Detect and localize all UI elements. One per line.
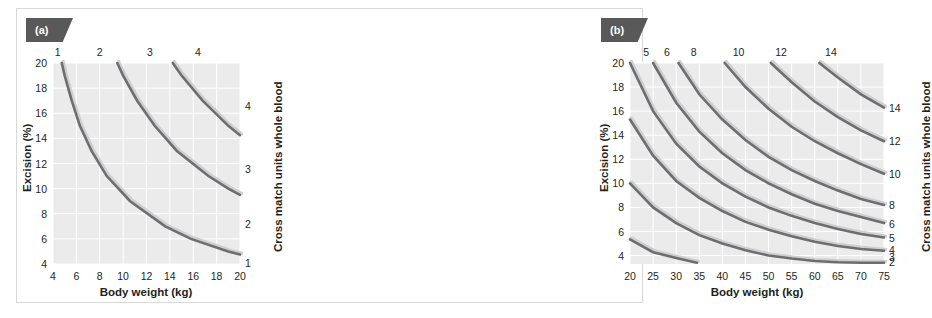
panel-a-xtick-6: 6 — [73, 270, 79, 282]
panel-a-yaxis-title: Excision (%) — [21, 124, 33, 192]
panel-a-right-label-2: 2 — [245, 218, 251, 230]
panel-a-xtick-20: 20 — [234, 270, 246, 282]
panel-a-ytick-20: 20 — [27, 57, 47, 69]
panel-a-xtick-8: 8 — [97, 270, 103, 282]
panel-b-xtick-65: 65 — [832, 270, 844, 282]
panel-a-plot-area — [53, 63, 240, 264]
panel-b-ytick-20: 20 — [604, 57, 624, 69]
panel-b-xtick-40: 40 — [717, 270, 729, 282]
panel-a-xtick-10: 10 — [117, 270, 129, 282]
panel-b-right-label-10: 10 — [889, 168, 901, 180]
panel-b-right-label-6: 6 — [889, 218, 895, 230]
panel-a-xtick-4: 4 — [50, 270, 56, 282]
panel-b-xtick-55: 55 — [786, 270, 798, 282]
panel-a-ytick-6: 6 — [27, 233, 47, 245]
panel-b-xaxis-title: Body weight (kg) — [711, 286, 804, 298]
panel-b-xtick-20: 20 — [624, 270, 636, 282]
panel-b-right-label-2: 2 — [889, 256, 895, 268]
panel-b-xtick-45: 45 — [740, 270, 752, 282]
panel-a-ytick-18: 18 — [27, 82, 47, 94]
panel-b-ytick-16: 16 — [604, 105, 624, 117]
panel-a: (a) 468101214161820468101214161820123443… — [0, 0, 300, 318]
panel-a-right-label-1: 1 — [245, 257, 251, 269]
panel-b-top-label-6: 6 — [664, 46, 670, 58]
panel-b-top-label-14: 14 — [825, 46, 837, 58]
panel-a-right-label-4: 4 — [245, 100, 251, 112]
panel-a-right-axis-title: Cross match units whole blood — [272, 81, 284, 252]
panel-a-top-label-3: 3 — [147, 46, 153, 58]
panel-b-ytick-18: 18 — [604, 81, 624, 93]
panel-b-yaxis-title: Excision (%) — [598, 124, 610, 192]
panel-a-xtick-14: 14 — [164, 270, 176, 282]
panel-a-top-label-1: 1 — [55, 46, 61, 58]
panel-a-xtick-18: 18 — [211, 270, 223, 282]
panel-a-badge: (a) — [26, 18, 73, 42]
panel-b-curves — [630, 63, 884, 264]
panel-b-ytick-4: 4 — [604, 250, 624, 262]
panel-b-right-axis-title: Cross match units whole blood — [920, 81, 932, 252]
panel-b-top-label-10: 10 — [733, 46, 745, 58]
panel-b-xtick-50: 50 — [763, 270, 775, 282]
panel-b-right-label-12: 12 — [889, 135, 901, 147]
panel-b-right-label-14: 14 — [889, 102, 901, 114]
panel-a-right-label-3: 3 — [245, 163, 251, 175]
panel-b-xtick-35: 35 — [693, 270, 705, 282]
panel-b-ytick-8: 8 — [604, 201, 624, 213]
panel-b-xtick-75: 75 — [878, 270, 890, 282]
panel-a-top-label-4: 4 — [195, 46, 201, 58]
panel-b-top-label-12: 12 — [775, 46, 787, 58]
panel-b-badge: (b) — [601, 18, 648, 42]
panel-b-right-label-5: 5 — [889, 232, 895, 244]
panel-b-top-label-5: 5 — [643, 46, 649, 58]
panel-a-xtick-12: 12 — [141, 270, 153, 282]
panel-b-xtick-30: 30 — [670, 270, 682, 282]
panel-a-ytick-8: 8 — [27, 208, 47, 220]
panel-a-ytick-4: 4 — [27, 258, 47, 270]
panel-a-xtick-16: 16 — [187, 270, 199, 282]
panel-a-ytick-16: 16 — [27, 107, 47, 119]
panel-b-plot-area — [630, 63, 884, 264]
panel-a-curves — [53, 63, 240, 264]
panel-b-xtick-25: 25 — [647, 270, 659, 282]
panel-a-xaxis-title: Body weight (kg) — [100, 286, 193, 298]
panel-a-top-label-2: 2 — [97, 46, 103, 58]
panel-b-top-label-8: 8 — [691, 46, 697, 58]
panel-b-right-label-8: 8 — [889, 199, 895, 211]
panel-b-xtick-70: 70 — [855, 270, 867, 282]
panel-b: (b) 468101214161820202530354045505560657… — [295, 0, 659, 318]
panel-b-xtick-60: 60 — [809, 270, 821, 282]
panel-b-ytick-6: 6 — [604, 226, 624, 238]
